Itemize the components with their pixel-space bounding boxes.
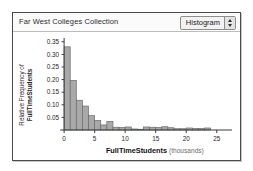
x-tick-label: 10 (122, 135, 130, 142)
window-title-bar: Far West Colleges Collection Histogram (13, 13, 240, 32)
y-axis-ticks: 0.050.100.150.200.250.300.35 (47, 38, 64, 121)
x-tick-label: 20 (183, 135, 191, 142)
histogram-svg: Relative Frequency of FullTimeStudents 0… (13, 32, 240, 160)
histogram-bar (101, 125, 107, 130)
histogram-bar (95, 120, 101, 130)
y-tick-label: 0.20 (47, 76, 60, 83)
y-axis-title-line1: Relative Frequency of (18, 64, 26, 126)
y-tick-label: 0.05 (47, 114, 60, 121)
histogram-bar (107, 121, 113, 130)
y-axis-title-line2: FullTimeStudents (26, 68, 33, 121)
collection-title: Far West Colleges Collection (19, 17, 118, 26)
x-tick-label: 0 (62, 135, 66, 142)
histogram-bar (82, 106, 88, 130)
x-tick-label: 5 (93, 135, 97, 142)
x-tick-label: 15 (152, 135, 160, 142)
histogram-bar (70, 80, 76, 130)
y-tick-label: 0.25 (47, 63, 60, 70)
x-axis-ticks: 0510152025 (62, 130, 220, 142)
plot-type-stepper[interactable] (224, 17, 235, 29)
y-tick-label: 0.10 (47, 101, 60, 108)
y-tick-label: 0.15 (47, 88, 60, 95)
plot-type-selected-value[interactable]: Histogram (181, 17, 224, 29)
triangle-up-icon[interactable] (228, 19, 232, 22)
x-axis-title-unit: (thousands) (169, 147, 204, 155)
plot-type-dropdown[interactable]: Histogram (180, 16, 236, 30)
x-axis-title: FullTimeStudents (106, 146, 167, 155)
histogram-bars (64, 47, 211, 130)
y-axis-title-group: Relative Frequency of FullTimeStudents (18, 64, 33, 126)
collection-window: Far West Colleges Collection Histogram R… (12, 12, 241, 161)
histogram-bar (76, 100, 82, 130)
y-tick-label: 0.35 (47, 38, 60, 45)
histogram-bar (89, 116, 95, 130)
triangle-down-icon[interactable] (228, 24, 232, 27)
histogram-bar (64, 47, 70, 130)
x-tick-label: 25 (213, 135, 221, 142)
histogram-chart: Relative Frequency of FullTimeStudents 0… (13, 32, 240, 160)
y-tick-label: 0.30 (47, 51, 60, 58)
